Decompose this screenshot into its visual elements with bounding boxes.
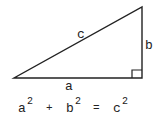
eq-b-exp: 2 (75, 96, 81, 107)
label-b: b (145, 38, 153, 53)
eq-a-exp: 2 (27, 96, 33, 107)
label-c: c (77, 27, 85, 42)
right-triangle (14, 7, 142, 78)
pythagorean-equation: a 2 + b 2 = c 2 (18, 96, 128, 116)
pythagorean-diagram: c b a a 2 + b 2 = c 2 (0, 0, 161, 121)
right-angle-marker (132, 70, 142, 78)
eq-a: a (18, 101, 26, 116)
eq-plus: + (46, 102, 53, 114)
eq-c: c (113, 101, 121, 116)
eq-c-exp: 2 (122, 96, 128, 107)
label-a: a (65, 79, 73, 94)
eq-equals: = (93, 102, 100, 114)
eq-b: b (66, 101, 74, 116)
